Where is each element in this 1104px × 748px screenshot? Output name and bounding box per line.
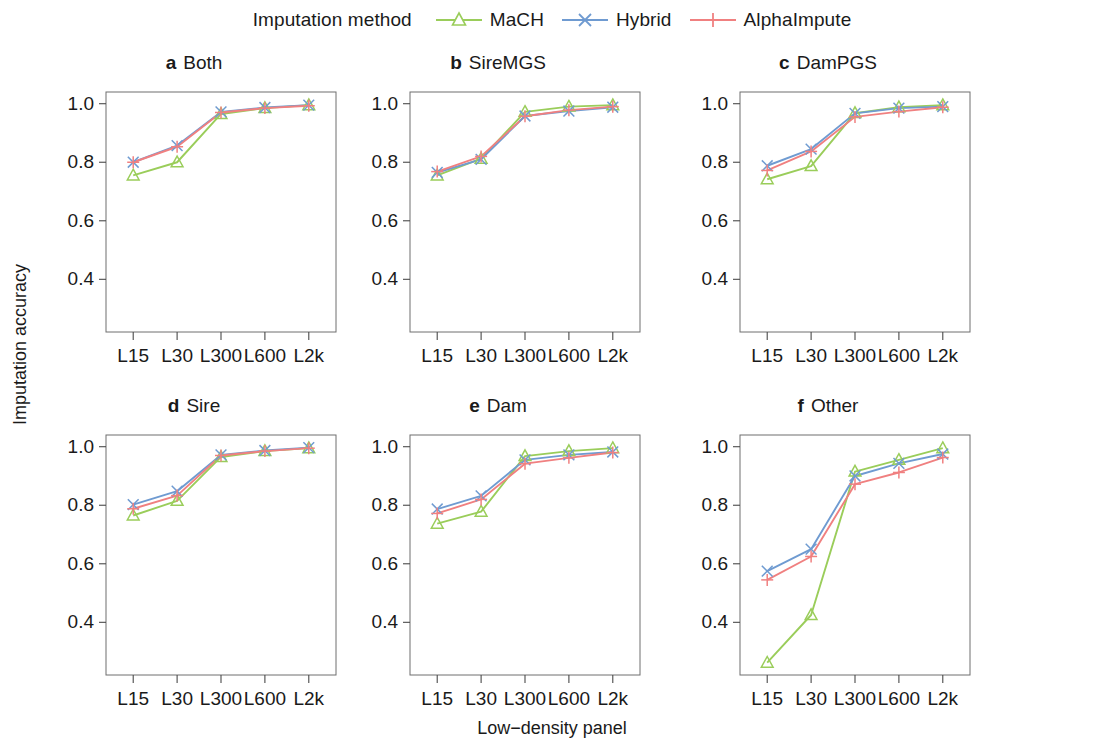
x-tick-label: L600 (244, 345, 286, 366)
panel-tag-b: b (450, 52, 462, 73)
x-tick-label: L300 (504, 688, 546, 709)
x-tick-label: L30 (795, 688, 827, 709)
x-tick-label: L300 (834, 345, 876, 366)
panel-title-f: fOther (678, 395, 978, 417)
panel-grid: aBoth0.40.60.81.0L15L30L300L600L2kbSireM… (0, 40, 1104, 748)
plot-area-f: 0.40.60.81.0L15L30L300L600L2k (678, 423, 978, 723)
x-tick-label: L600 (548, 345, 590, 366)
y-tick-label: 0.6 (372, 553, 398, 574)
y-tick-label: 0.6 (702, 553, 728, 574)
x-tick-label: L30 (795, 345, 827, 366)
panel-name-e: Dam (487, 395, 527, 416)
y-tick-label: 0.8 (68, 151, 94, 172)
x-tick-label: L30 (161, 688, 193, 709)
x-tick-label: L600 (244, 688, 286, 709)
y-tick-label: 0.8 (372, 494, 398, 515)
plot-area-a: 0.40.60.81.0L15L30L300L600L2k (44, 80, 344, 380)
x-tick-label: L15 (421, 688, 453, 709)
y-tick-label: 0.4 (68, 611, 95, 632)
panel-tag-e: e (469, 395, 480, 416)
x-tick-label: L300 (200, 345, 242, 366)
legend: Imputation method MaCH Hybrid AlphaImput… (0, 0, 1104, 40)
y-tick-label: 0.4 (68, 268, 95, 289)
x-tick-label: L600 (878, 688, 920, 709)
x-tick-label: L15 (421, 345, 453, 366)
panel-e: eDam0.40.60.81.0L15L30L300L600L2k (348, 395, 648, 725)
legend-entry-mach: MaCH (436, 9, 544, 31)
x-tick-label: L2k (597, 345, 628, 366)
y-tick-label: 0.6 (372, 210, 398, 231)
x-tick-label: L15 (117, 688, 149, 709)
panel-name-d: Sire (186, 395, 220, 416)
y-tick-label: 0.8 (68, 494, 94, 515)
x-tick-label: L30 (161, 345, 193, 366)
panel-name-c: DamPGS (797, 52, 877, 73)
plot-area-c: 0.40.60.81.0L15L30L300L600L2k (678, 80, 978, 380)
panel-name-b: SireMGS (469, 52, 546, 73)
x-tick-label: L30 (465, 688, 497, 709)
panel-name-f: Other (811, 395, 859, 416)
panel-title-a: aBoth (44, 52, 344, 74)
y-tick-label: 0.6 (68, 553, 94, 574)
panel-d: dSire0.40.60.81.0L15L30L300L600L2k (44, 395, 344, 725)
x-axis-label: Low−density panel (0, 718, 1104, 739)
data-point-marker (431, 507, 443, 519)
legend-label-hybrid: Hybrid (616, 9, 672, 31)
y-axis-label: Imputation accuracy (10, 195, 31, 495)
panel-a: aBoth0.40.60.81.0L15L30L300L600L2k (44, 52, 344, 382)
legend-entry-alphaimpute: AlphaImpute (690, 9, 852, 31)
legend-title: Imputation method (253, 9, 412, 31)
plus-marker-icon (690, 9, 736, 31)
legend-label-alphaimpute: AlphaImpute (744, 9, 852, 31)
panel-tag-d: d (168, 395, 180, 416)
y-tick-label: 0.8 (702, 151, 728, 172)
panel-name-a: Both (183, 52, 222, 73)
x-tick-label: L2k (597, 688, 628, 709)
x-tick-label: L2k (293, 345, 324, 366)
y-tick-label: 1.0 (372, 93, 398, 114)
x-tick-label: L2k (293, 688, 324, 709)
panel-tag-a: a (166, 52, 177, 73)
y-tick-label: 0.4 (702, 268, 729, 289)
triangle-marker-icon (436, 9, 482, 31)
plot-frame (410, 92, 640, 332)
x-tick-label: L2k (927, 688, 958, 709)
plot-area-b: 0.40.60.81.0L15L30L300L600L2k (348, 80, 648, 380)
panel-tag-c: c (779, 52, 790, 73)
x-tick-label: L2k (927, 345, 958, 366)
panel-c: cDamPGS0.40.60.81.0L15L30L300L600L2k (678, 52, 978, 382)
panel-b: bSireMGS0.40.60.81.0L15L30L300L600L2k (348, 52, 648, 382)
y-tick-label: 1.0 (68, 436, 94, 457)
x-tick-label: L15 (751, 345, 783, 366)
x-tick-label: L15 (117, 345, 149, 366)
x-tick-label: L600 (878, 345, 920, 366)
x-tick-label: L300 (504, 345, 546, 366)
x-tick-label: L300 (200, 688, 242, 709)
y-tick-label: 0.8 (702, 494, 728, 515)
y-tick-label: 0.4 (372, 268, 399, 289)
panel-title-c: cDamPGS (678, 52, 978, 74)
x-tick-label: L600 (548, 688, 590, 709)
y-tick-label: 0.4 (702, 611, 729, 632)
y-tick-label: 1.0 (702, 93, 728, 114)
x-tick-label: L30 (465, 345, 497, 366)
y-tick-label: 1.0 (372, 436, 398, 457)
plot-frame (410, 435, 640, 675)
y-tick-label: 0.6 (702, 210, 728, 231)
y-tick-label: 1.0 (702, 436, 728, 457)
plot-frame (106, 92, 336, 332)
y-tick-label: 0.8 (372, 151, 398, 172)
plot-frame (740, 92, 970, 332)
x-tick-label: L300 (834, 688, 876, 709)
data-point-marker (127, 503, 139, 515)
panel-title-e: eDam (348, 395, 648, 417)
panel-title-b: bSireMGS (348, 52, 648, 74)
data-point-marker (761, 164, 773, 176)
cross-x-marker-icon (562, 9, 608, 31)
y-tick-label: 0.6 (68, 210, 94, 231)
figure-root: Imputation method MaCH Hybrid AlphaImput… (0, 0, 1104, 748)
legend-entry-hybrid: Hybrid (562, 9, 672, 31)
y-tick-label: 0.4 (372, 611, 399, 632)
plot-frame (106, 435, 336, 675)
x-tick-label: L15 (751, 688, 783, 709)
